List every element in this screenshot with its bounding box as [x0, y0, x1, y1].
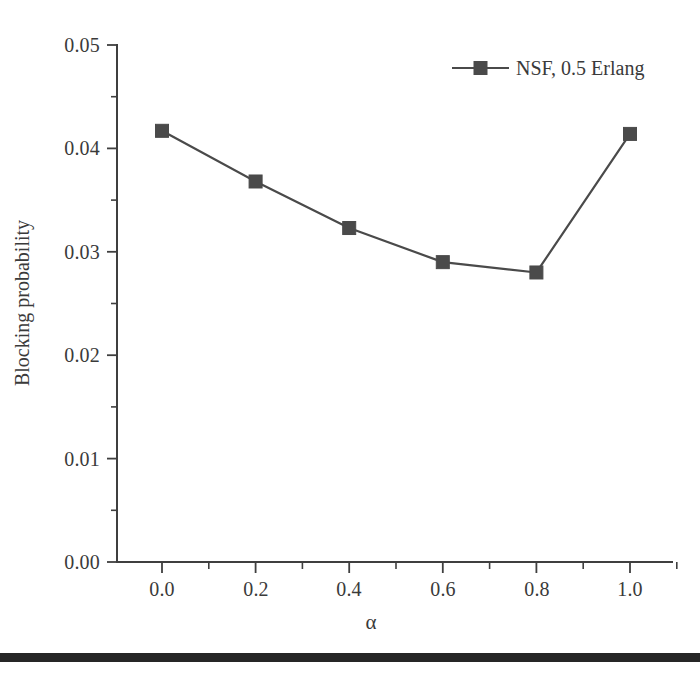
chart-figure: 0.05 0.04 0.03 0.02 0.01 0.00 0.0 0.2 0.…: [0, 0, 700, 674]
y-tick-label-2: 0.03: [42, 241, 100, 264]
series-line-0: [162, 131, 630, 273]
legend-entry-label: NSF, 0.5 Erlang: [516, 57, 644, 80]
x-axis-title: α: [365, 610, 376, 635]
data-point-marker: [343, 222, 356, 235]
bottom-rule: [0, 653, 700, 662]
y-tick-label-4: 0.01: [42, 448, 100, 471]
x-tick-label-3: 0.6: [430, 578, 456, 601]
data-point-marker: [436, 256, 449, 269]
legend-sample-marker: [474, 62, 487, 75]
y-tick-label-3: 0.02: [42, 344, 100, 367]
chart-plot-area: [0, 0, 700, 674]
axis-lines: [117, 45, 672, 562]
x-tick-label-1: 0.2: [243, 578, 269, 601]
data-point-marker: [624, 127, 637, 140]
data-point-marker: [530, 266, 543, 279]
data-point-marker: [156, 124, 169, 137]
data-point-marker: [249, 175, 262, 188]
x-tick-label-2: 0.4: [336, 578, 362, 601]
x-tick-label-4: 0.8: [524, 578, 550, 601]
x-tick-label-5: 1.0: [617, 578, 643, 601]
y-tick-label-5: 0.00: [42, 551, 100, 574]
y-axis-title: Blocking probability: [11, 220, 34, 386]
y-tick-label-0: 0.05: [42, 34, 100, 57]
y-tick-label-1: 0.04: [42, 137, 100, 160]
x-tick-label-0: 0.0: [149, 578, 175, 601]
